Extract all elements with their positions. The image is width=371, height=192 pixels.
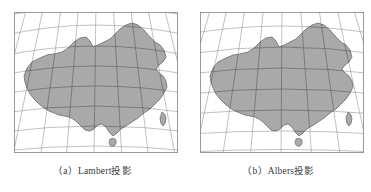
caption-albers-text: （b）Albers投影 [242, 166, 314, 176]
map-albers [200, 12, 364, 153]
hainan-island [295, 138, 302, 146]
map-lambert [14, 12, 178, 153]
map-frame-lambert [14, 12, 178, 153]
caption-albers: （b）Albers投影 [186, 163, 371, 177]
hainan-island [109, 138, 116, 146]
map-frame-albers [200, 12, 364, 153]
panel-albers: （b）Albers投影 [186, 0, 371, 192]
panel-lambert: （a）Lambert投影 [0, 0, 185, 192]
caption-lambert: （a）Lambert投影 [0, 163, 185, 177]
caption-lambert-text: （a）Lambert投影 [53, 166, 132, 176]
figure-projection-comparison: （a）Lambert投影 [0, 0, 371, 192]
